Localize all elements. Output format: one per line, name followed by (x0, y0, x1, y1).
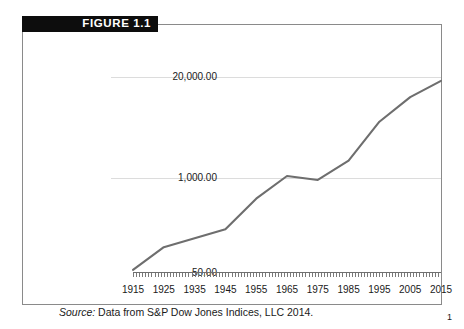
x-tick-label: 1975 (307, 285, 329, 295)
gridline-20000-stub (111, 77, 133, 78)
x-tick-label: 2015 (430, 285, 452, 295)
gridline-1000-stub (111, 178, 133, 179)
x-tick-label: 1965 (276, 285, 298, 295)
x-tick-label: 1995 (368, 285, 390, 295)
figure-banner-label: FIGURE 1.1 (82, 18, 151, 30)
figure-banner: FIGURE 1.1 (22, 16, 158, 32)
source-note: Source: Data from S&P Dow Jones Indices,… (59, 307, 313, 318)
x-tick-label: 1935 (183, 285, 205, 295)
figure-box: 20,000.00 1,000.00 50.00 1915 1925 1935 … (22, 24, 442, 305)
series-line-dow-jones (133, 63, 441, 273)
x-tick-label: 1925 (153, 285, 175, 295)
x-tick-label: 2005 (399, 285, 421, 295)
chart-plot-area: 20,000.00 1,000.00 50.00 1915 1925 1935 … (133, 77, 441, 273)
x-tick-label: 1985 (337, 285, 359, 295)
x-axis-labels: 1915 1925 1935 1945 1955 1965 1975 1985 … (133, 279, 441, 293)
x-axis-minor-ticks (133, 273, 441, 277)
x-tick-label: 1955 (245, 285, 267, 295)
page-number: 1 (447, 313, 452, 322)
source-note-label: Source: (59, 306, 95, 318)
source-note-text: Data from S&P Dow Jones Indices, LLC 201… (95, 306, 313, 318)
x-tick-label: 1945 (214, 285, 236, 295)
x-tick-label: 1915 (122, 285, 144, 295)
